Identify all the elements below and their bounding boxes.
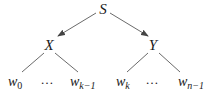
edge-s-y xyxy=(110,13,148,36)
node-s: S xyxy=(99,1,107,17)
leaf-wk: wk xyxy=(116,74,130,91)
leaf-wk-1: wk−1 xyxy=(70,74,96,91)
leaf-wn-1-sub: n−1 xyxy=(187,80,204,91)
edge-x-wk-1 xyxy=(55,53,78,72)
leaf-w0-sub: 0 xyxy=(17,80,22,91)
leaf-w0: w0 xyxy=(8,74,22,91)
node-x: X xyxy=(43,37,54,53)
node-y: Y xyxy=(149,37,159,53)
edge-s-x xyxy=(58,13,96,36)
tree-diagram: S X Y w0 … wk−1 wk … wn−1 xyxy=(0,0,211,94)
leaf-wk-1-sub: k−1 xyxy=(79,80,95,91)
edge-y-wk xyxy=(127,53,148,72)
edge-x-w0 xyxy=(22,53,44,72)
leaf-wn-1: wn−1 xyxy=(178,74,204,91)
leaf-dots-left: … xyxy=(41,72,54,87)
leaf-wk-sub: k xyxy=(125,80,130,91)
edge-y-wn-1 xyxy=(159,53,180,72)
leaf-dots-right: … xyxy=(146,72,159,87)
